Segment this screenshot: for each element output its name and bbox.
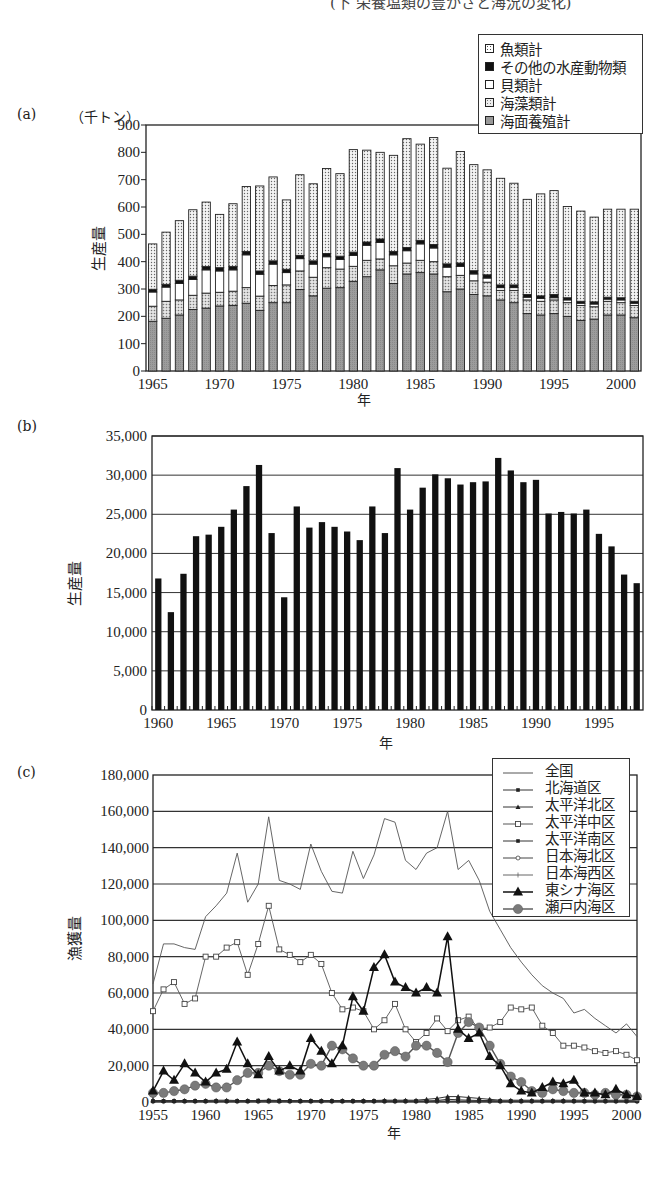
legend-c-item: 瀬戸内海区: [493, 897, 629, 914]
svg-text:40,000: 40,000: [108, 1021, 149, 1037]
svg-text:400: 400: [118, 254, 141, 270]
svg-text:1975: 1975: [332, 715, 362, 731]
chart-b-bar: 05,00010,00015,00020,00025,00030,00035,0…: [0, 420, 672, 760]
white-swatch-icon: [485, 80, 494, 89]
black-swatch-icon: [485, 62, 494, 71]
svg-text:15,000: 15,000: [106, 585, 147, 601]
svg-text:1985: 1985: [454, 1107, 484, 1123]
legend-a-item-seaweed: 海藻類計: [479, 93, 642, 111]
svg-text:35,000: 35,000: [106, 428, 147, 444]
svg-text:年: 年: [357, 393, 371, 408]
svg-text:生産量: 生産量: [67, 561, 83, 606]
svg-text:1985: 1985: [405, 376, 435, 392]
legend-a-item-aquaculture: 海面養殖計: [479, 111, 642, 129]
gray-swatch-icon: [485, 116, 494, 125]
svg-text:2000: 2000: [606, 376, 636, 392]
svg-text:900: 900: [118, 117, 141, 133]
svg-text:700: 700: [118, 172, 141, 188]
svg-text:1995: 1995: [584, 715, 614, 731]
line-icon: [501, 765, 535, 775]
svg-text:5,000: 5,000: [113, 663, 147, 679]
svg-text:1975: 1975: [348, 1107, 378, 1123]
svg-text:1990: 1990: [472, 376, 502, 392]
svg-text:25,000: 25,000: [106, 506, 147, 522]
svg-text:600: 600: [118, 199, 141, 215]
svg-text:80,000: 80,000: [108, 949, 149, 965]
svg-text:800: 800: [118, 144, 141, 160]
legend-label: 瀬戸内海区: [545, 895, 615, 916]
line-plus-marker-icon: [501, 867, 535, 877]
svg-text:年: 年: [387, 1126, 401, 1141]
svg-text:100: 100: [118, 336, 141, 352]
svg-text:1995: 1995: [559, 1107, 589, 1123]
svg-text:2000: 2000: [611, 1107, 641, 1123]
line-square-marker-icon: [501, 833, 535, 843]
svg-text:20,000: 20,000: [106, 545, 147, 561]
svg-text:1970: 1970: [296, 1107, 326, 1123]
svg-text:1980: 1980: [401, 1107, 431, 1123]
dotted-light-swatch-icon: [485, 98, 494, 107]
line-large-triangle-marker-icon: [501, 884, 535, 894]
legend-a: 魚類計 その他の水産動物類 貝類計 海藻類計 海面養殖計: [478, 34, 643, 134]
legend-label: 海面養殖計: [500, 110, 570, 131]
svg-text:100,000: 100,000: [100, 912, 149, 928]
line-open-circle-marker-icon: [501, 850, 535, 860]
dotted-swatch-icon: [485, 44, 494, 53]
svg-text:20,000: 20,000: [108, 1058, 149, 1074]
legend-a-item-shellfish: 貝類計: [479, 75, 642, 93]
line-open-square-marker-icon: [501, 816, 535, 826]
svg-text:300: 300: [118, 281, 141, 297]
line-triangle-marker-icon: [501, 799, 535, 809]
svg-text:160,000: 160,000: [100, 803, 149, 819]
svg-text:200: 200: [118, 308, 141, 324]
svg-text:1995: 1995: [539, 376, 569, 392]
svg-text:180,000: 180,000: [100, 767, 149, 783]
svg-text:1975: 1975: [271, 376, 301, 392]
series-瀬戸内海区: [148, 1017, 641, 1101]
svg-text:1955: 1955: [138, 1107, 168, 1123]
svg-text:140,000: 140,000: [100, 840, 149, 856]
svg-text:1965: 1965: [138, 376, 168, 392]
legend-a-item-other: その他の水産動物類: [479, 57, 642, 75]
svg-text:500: 500: [118, 226, 141, 242]
svg-text:漁獲量: 漁獲量: [67, 916, 83, 961]
svg-text:1960: 1960: [143, 715, 173, 731]
svg-text:年: 年: [379, 736, 393, 751]
svg-text:1980: 1980: [338, 376, 368, 392]
svg-text:1990: 1990: [521, 715, 551, 731]
legend-c: 全国 北海道区 太平洋北区 太平洋中区 太平洋南区 日本海北区 日本海西区 東シ…: [492, 758, 630, 917]
svg-text:120,000: 120,000: [100, 876, 149, 892]
svg-text:1965: 1965: [243, 1107, 273, 1123]
svg-text:1965: 1965: [206, 715, 236, 731]
svg-text:1990: 1990: [506, 1107, 536, 1123]
svg-text:1960: 1960: [191, 1107, 221, 1123]
svg-text:10,000: 10,000: [106, 624, 147, 640]
legend-a-item-fish: 魚類計: [479, 39, 642, 57]
line-gray-circle-marker-icon: [501, 901, 535, 911]
svg-text:生産量: 生産量: [91, 226, 107, 271]
svg-text:30,000: 30,000: [106, 467, 147, 483]
svg-text:60,000: 60,000: [108, 985, 149, 1001]
svg-text:1970: 1970: [269, 715, 299, 731]
svg-text:1970: 1970: [205, 376, 235, 392]
svg-text:1980: 1980: [395, 715, 425, 731]
svg-text:1985: 1985: [458, 715, 488, 731]
line-square-marker-icon: [501, 782, 535, 792]
